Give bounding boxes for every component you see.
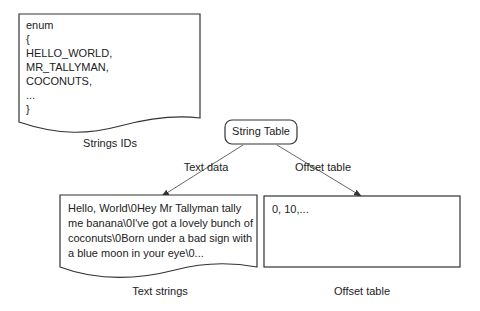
enum-line: HELLO_WORLD,: [26, 46, 112, 61]
offset-table-content: 0, 10,...: [272, 202, 309, 217]
string-table-node: String Table: [225, 125, 297, 137]
enum-caption: Strings IDs: [60, 137, 160, 149]
text-line: a blue moon in your eye\0...: [68, 246, 204, 261]
enum-line: MR_TALLYMAN,: [26, 60, 109, 75]
enum-line: }: [26, 102, 30, 117]
enum-line: {: [26, 32, 30, 47]
enum-line: ...: [26, 88, 35, 103]
text-line: Hello, World\0Hey Mr Tallyman tally: [68, 201, 241, 216]
edge-label-offset-table: Offset table: [283, 161, 363, 173]
text-line: me banana\0I've got a lovely bunch of: [68, 216, 253, 231]
offset-table-caption: Offset table: [312, 285, 412, 297]
text-line: coconuts\0Born under a bad sign with: [68, 231, 252, 246]
edge-label-text-data: Text data: [176, 161, 236, 173]
enum-line: COCONUTS,: [26, 74, 92, 89]
text-strings-caption: Text strings: [110, 285, 210, 297]
enum-line: enum: [26, 18, 54, 33]
